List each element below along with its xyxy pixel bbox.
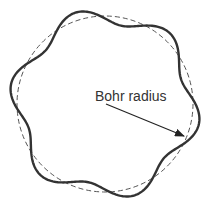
bohr-radius-circle [17,16,193,192]
bohr-orbit-diagram: Bohr radius [0,0,210,207]
radius-arrow [106,104,184,136]
electron-standing-wave [11,12,200,197]
bohr-radius-label: Bohr radius [95,88,167,104]
